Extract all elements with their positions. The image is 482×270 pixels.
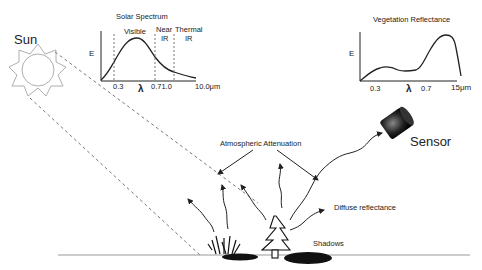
vegetation-tick-2: 15μm bbox=[451, 84, 471, 92]
atmospheric-attenuation-label: Atmospheric Attenuation bbox=[220, 140, 301, 148]
solar-xlabel: λ bbox=[138, 84, 144, 94]
sun-ray-upper bbox=[55, 52, 258, 203]
attenuation-arrow-right bbox=[277, 150, 318, 180]
sun-ray-lower bbox=[30, 98, 200, 255]
diffuse-reflectance-label: Diffuse reflectance bbox=[334, 204, 396, 212]
bush-icon bbox=[208, 236, 240, 254]
vegetation-tick-1: 0.7 bbox=[421, 85, 431, 93]
solar-band-near-ir-1: Near bbox=[156, 26, 172, 34]
vegetation-xlabel: λ bbox=[406, 84, 412, 94]
attenuation-arrow-left bbox=[218, 150, 253, 174]
vegetation-ylabel: E bbox=[349, 50, 354, 58]
solar-band-thermal-2: IR bbox=[185, 35, 193, 43]
shadows-label: Shadows bbox=[313, 240, 344, 248]
sun-label: Sun bbox=[14, 33, 37, 46]
solar-band-near-ir-2: IR bbox=[161, 35, 169, 43]
solar-band-thermal-1: Thermal bbox=[175, 26, 203, 34]
vegetation-tick-0: 0.3 bbox=[370, 85, 380, 93]
solar-band-visible: Visible bbox=[124, 28, 146, 36]
sensor-label: Sensor bbox=[410, 135, 451, 148]
solar-tick-2: 10.0μm bbox=[195, 83, 220, 91]
solar-ylabel: E bbox=[89, 50, 94, 58]
tree-icon bbox=[262, 216, 290, 258]
solar-spectrum-chart bbox=[101, 31, 196, 81]
vegetation-title: Vegetation Reflectance bbox=[373, 16, 450, 24]
solar-spectrum-title: Solar Spectrum bbox=[116, 13, 168, 21]
solar-tick-1: 0.71.0 bbox=[151, 83, 172, 91]
bush-shadow bbox=[222, 254, 258, 261]
sun-icon bbox=[9, 44, 66, 96]
tree-shadow bbox=[284, 252, 332, 264]
solar-tick-0: 0.3 bbox=[113, 83, 123, 91]
vegetation-reflectance-chart bbox=[360, 32, 461, 81]
